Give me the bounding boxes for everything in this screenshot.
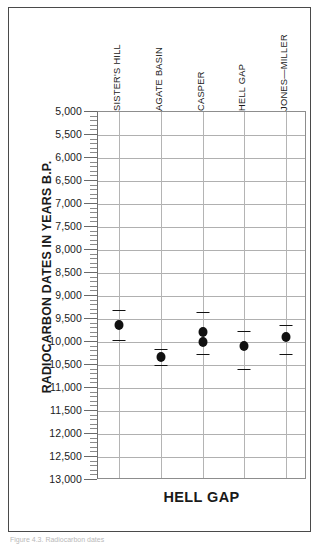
y-axis-tick-major xyxy=(84,203,97,204)
y-axis-tick-minor xyxy=(90,208,97,209)
category-label-layer: SISTER'S HILLAGATE BASINCASPERHELL GAPJO… xyxy=(97,20,306,111)
gridline-horizontal xyxy=(98,273,305,274)
y-axis-tick-minor xyxy=(90,401,97,402)
y-axis-tick-major xyxy=(84,249,97,250)
gridline-horizontal xyxy=(98,135,305,136)
y-axis-tick-minor xyxy=(90,461,97,462)
gridline-vertical xyxy=(119,112,120,478)
y-axis-tick-minor xyxy=(90,212,97,213)
category-label: CASPER xyxy=(196,71,206,111)
y-axis-tick-major xyxy=(84,387,97,388)
gridline-horizontal xyxy=(98,457,305,458)
y-axis-tick-minor xyxy=(90,419,97,420)
y-axis-tick-minor xyxy=(90,332,97,333)
y-axis-tick-minor xyxy=(90,258,97,259)
y-axis-tick-minor xyxy=(90,373,97,374)
y-axis-tick-minor xyxy=(90,309,97,310)
error-cap-lower xyxy=(196,312,209,313)
gridline-horizontal xyxy=(98,158,305,159)
y-axis-tick-minor xyxy=(90,263,97,264)
y-axis-tick-major xyxy=(84,433,97,434)
y-axis-tick-minor xyxy=(90,327,97,328)
y-axis-tick-minor xyxy=(90,231,97,232)
y-axis-tick-minor xyxy=(90,438,97,439)
y-axis-tick-minor xyxy=(90,369,97,370)
y-axis-tick-minor xyxy=(90,125,97,126)
error-cap-lower xyxy=(154,349,167,350)
y-axis-tick-minor xyxy=(90,120,97,121)
y-axis-tick-minor xyxy=(90,382,97,383)
y-axis-tick-major xyxy=(84,180,97,181)
y-axis-tick-label: 12,500 xyxy=(49,450,82,462)
category-label: AGATE BASIN xyxy=(154,47,164,111)
data-point xyxy=(198,337,207,347)
y-axis-tick-minor xyxy=(90,189,97,190)
y-axis-tick-major xyxy=(84,456,97,457)
y-axis-tick-minor xyxy=(90,286,97,287)
gridline-vertical xyxy=(244,112,245,478)
y-axis-tick-minor xyxy=(90,304,97,305)
y-axis-tick-minor xyxy=(90,254,97,255)
data-point xyxy=(114,320,123,330)
error-cap-upper xyxy=(238,369,251,370)
y-axis-tick-minor xyxy=(90,148,97,149)
category-label: JONES—MILLER xyxy=(279,34,289,111)
y-axis-tick-major xyxy=(84,410,97,411)
y-axis-tick-minor xyxy=(90,152,97,153)
y-axis-tick-label: 7,000 xyxy=(55,197,82,209)
y-axis-tick-minor xyxy=(90,474,97,475)
y-axis-tick-minor xyxy=(90,465,97,466)
data-point xyxy=(240,341,249,351)
y-axis-tick-minor xyxy=(90,313,97,314)
y-axis-tick-label: 6,500 xyxy=(55,174,82,186)
y-axis-tick-minor xyxy=(90,451,97,452)
y-axis-tick-label: 10,500 xyxy=(49,358,82,370)
y-axis-tick-minor xyxy=(90,166,97,167)
y-axis-tick-label: 11,000 xyxy=(50,381,82,393)
y-axis-tick-minor xyxy=(90,470,97,471)
data-point xyxy=(282,332,291,342)
plot-area xyxy=(97,111,306,479)
error-cap-upper xyxy=(112,340,125,341)
y-axis-tick-minor xyxy=(90,396,97,397)
gridline-horizontal xyxy=(98,365,305,366)
y-axis-tick-major xyxy=(84,479,97,480)
error-cap-upper xyxy=(280,354,293,355)
y-axis-tick-minor xyxy=(90,346,97,347)
data-point xyxy=(156,352,165,362)
gridline-horizontal xyxy=(98,250,305,251)
y-axis-tick-minor xyxy=(90,194,97,195)
figure-frame: RADIOCARBON DATES IN YEARS B.P. 5,0005,5… xyxy=(8,7,311,532)
y-axis-tick-minor xyxy=(90,336,97,337)
y-axis-tick-minor xyxy=(90,129,97,130)
gridline-horizontal xyxy=(98,434,305,435)
y-axis-tick-minor xyxy=(90,162,97,163)
y-axis-tick-minor xyxy=(90,116,97,117)
y-axis-tick-label: 6,000 xyxy=(55,151,82,163)
y-axis-tick-minor xyxy=(90,350,97,351)
y-axis-tick-label: 8,500 xyxy=(55,266,82,278)
y-axis-tick-major xyxy=(84,341,97,342)
gridline-vertical xyxy=(203,112,204,478)
y-axis-tick-minor xyxy=(90,143,97,144)
y-axis-tick-label: 7,500 xyxy=(55,220,82,232)
y-axis-tick-minor xyxy=(90,424,97,425)
y-axis-tick-label: 5,500 xyxy=(55,128,82,140)
y-axis-tick-minor xyxy=(90,428,97,429)
y-axis-tick-minor xyxy=(90,415,97,416)
error-cap-upper xyxy=(196,354,209,355)
gridline-horizontal xyxy=(98,388,305,389)
y-axis-tick-layer: 5,0005,5006,0006,5007,0007,5008,0008,500… xyxy=(9,111,97,479)
y-axis-tick-minor xyxy=(90,281,97,282)
gridline-horizontal xyxy=(98,227,305,228)
y-axis-tick-major xyxy=(84,226,97,227)
y-axis-tick-minor xyxy=(90,355,97,356)
y-axis-tick-label: 9,500 xyxy=(55,312,82,324)
y-axis-tick-minor xyxy=(90,171,97,172)
y-axis-tick-label: 11,500 xyxy=(50,404,82,416)
y-axis-tick-minor xyxy=(90,277,97,278)
y-axis-tick-label: 13,000 xyxy=(49,473,82,485)
y-axis-tick-major xyxy=(84,111,97,112)
gridline-horizontal xyxy=(98,319,305,320)
y-axis-tick-major xyxy=(84,364,97,365)
